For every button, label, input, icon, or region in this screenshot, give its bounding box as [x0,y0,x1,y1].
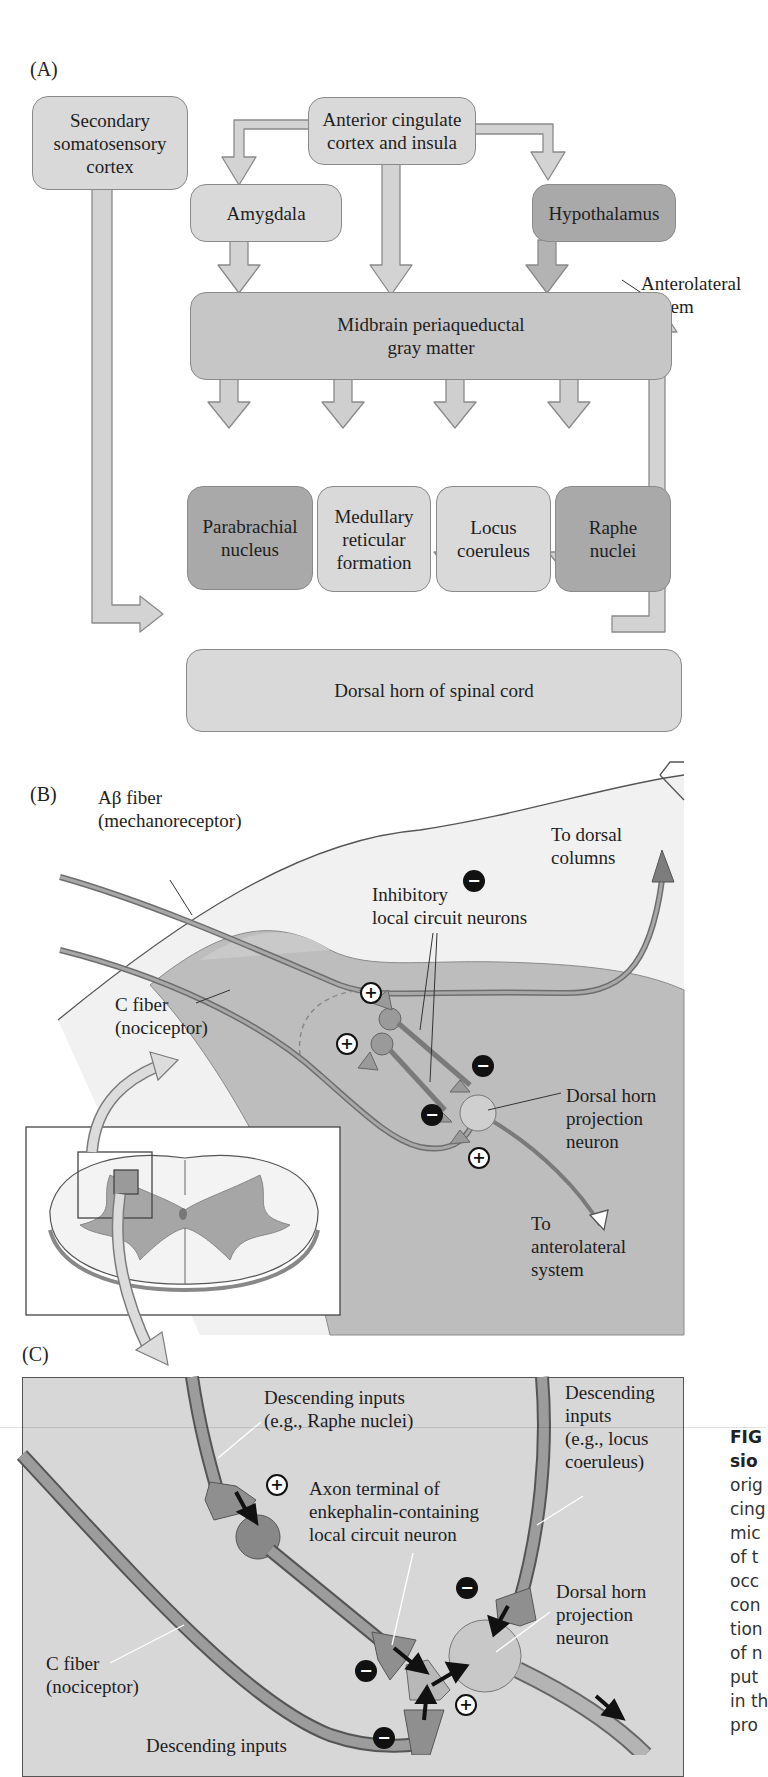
caption-line-12: in th [730,1689,768,1713]
caption-line-8: con [730,1593,761,1617]
caption-line-11: put [730,1665,758,1689]
label-c-fiber-c: C fiber (nociceptor) [46,1652,139,1698]
caption-line-7: occ [730,1569,759,1593]
label-descending-inputs-bottom: Descending inputs [146,1734,287,1757]
plus-sign-icon: + [266,1474,288,1496]
caption-line-3: orig [730,1473,763,1497]
page-rule [0,1427,766,1428]
caption-line-9: tion [730,1617,763,1641]
minus-sign-icon: − [456,1577,478,1599]
caption-line-4: cing [730,1497,766,1521]
caption-line-6: of t [730,1545,758,1569]
caption-line-13: pro [730,1713,758,1737]
minus-sign-icon: − [355,1660,377,1682]
plus-sign-icon: + [455,1694,477,1716]
label-dorsal-horn-projection-neuron-c: Dorsal horn projection neuron [556,1580,646,1649]
caption-line-5: mic [730,1521,761,1545]
caption-line-10: of n [730,1641,763,1665]
caption-line-1: FIG [730,1425,762,1449]
label-axon-terminal-enkephalin: Axon terminal of enkephalin-containing l… [309,1477,479,1546]
minus-sign-icon: − [373,1727,395,1749]
caption-line-2: sio [730,1449,758,1473]
label-descending-inputs-raphe: Descending inputs (e.g., Raphe nuclei) [264,1386,413,1432]
